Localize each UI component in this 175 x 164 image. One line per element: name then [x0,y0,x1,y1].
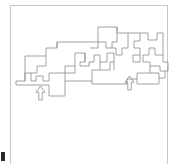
bottom-left-mark [1,152,5,161]
diagram-canvas [0,0,175,164]
figure-root [0,0,175,164]
